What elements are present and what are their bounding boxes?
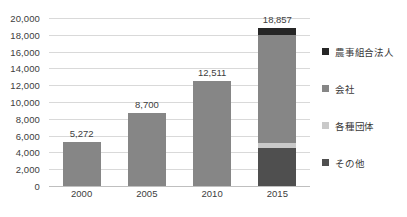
bar-2005: 8,700 — [128, 113, 166, 186]
bar-segment-会社 — [258, 35, 296, 143]
x-tick-label-2010: 2010 — [202, 188, 223, 199]
bar-segment-各種団体 — [258, 143, 296, 148]
y-tick-label: 14,000 — [10, 63, 40, 74]
legend-swatch-icon — [322, 159, 329, 166]
y-tick-label: 18,000 — [10, 29, 40, 40]
legend-swatch-icon — [322, 48, 329, 55]
x-tick-label-2005: 2005 — [136, 188, 157, 199]
y-tick-label: 6,000 — [16, 130, 40, 141]
x-axis-labels: 2000200520102015 — [49, 188, 310, 208]
chart-legend: 農事組合法人会社各種団体その他 — [322, 33, 406, 181]
bar-segment-農事組合法人 — [258, 28, 296, 35]
bar-value-label: 5,272 — [70, 128, 94, 139]
x-tick-label-2015: 2015 — [267, 188, 288, 199]
y-tick-label: 16,000 — [10, 46, 40, 57]
x-tick-label-2000: 2000 — [71, 188, 92, 199]
bar-value-label: 12,511 — [198, 67, 226, 78]
bar-segment-会社 — [128, 113, 166, 186]
bar-segment-会社 — [63, 142, 101, 186]
bar-2000: 5,272 — [63, 142, 101, 186]
legend-label: その他 — [335, 156, 364, 170]
bar-chart: 02,0004,0006,0008,00010,00012,00014,0001… — [0, 0, 407, 217]
y-tick-label: 12,000 — [10, 80, 40, 91]
plot-area: 5,2728,70012,51118,857 — [49, 18, 310, 186]
bar-value-label: 18,857 — [263, 14, 292, 25]
legend-item-0[interactable]: 農事組合法人 — [322, 33, 406, 70]
bar-segment-会社 — [193, 81, 231, 186]
y-tick-label: 0 — [35, 181, 40, 192]
bar-value-label: 8,700 — [135, 99, 159, 110]
bar-2010: 12,511 — [193, 81, 231, 186]
legend-swatch-icon — [322, 85, 329, 92]
bar-2015: 18,857 — [258, 28, 296, 186]
legend-item-1[interactable]: 会社 — [322, 70, 406, 107]
y-tick-label: 2,000 — [16, 164, 40, 175]
y-tick-label: 20,000 — [10, 13, 40, 24]
y-tick-label: 8,000 — [16, 113, 40, 124]
legend-item-3[interactable]: その他 — [322, 144, 406, 181]
legend-swatch-icon — [322, 122, 329, 129]
legend-label: 農事組合法人 — [335, 45, 394, 59]
y-axis-labels: 02,0004,0006,0008,00010,00012,00014,0001… — [0, 18, 46, 186]
legend-label: 各種団体 — [335, 119, 374, 133]
legend-label: 会社 — [335, 82, 355, 96]
bar-segment-その他 — [258, 148, 296, 186]
y-tick-label: 4,000 — [16, 147, 40, 158]
axis-baseline — [49, 186, 310, 187]
y-tick-label: 10,000 — [10, 97, 40, 108]
legend-item-2[interactable]: 各種団体 — [322, 107, 406, 144]
